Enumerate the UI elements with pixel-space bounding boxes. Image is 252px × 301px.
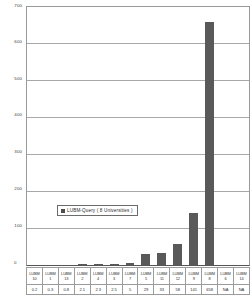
y-tick-label: 600 <box>14 40 22 44</box>
y-tick-label: 700 <box>14 4 22 8</box>
category-number: 8 <box>202 276 217 281</box>
bar-slot <box>90 7 106 265</box>
bar[interactable] <box>205 22 214 265</box>
category-cell: LUBM2 <box>74 268 90 285</box>
bar-slot <box>201 7 217 265</box>
category-cell: LUBM11 <box>154 268 170 285</box>
value-cell: 2.3 <box>90 285 106 295</box>
y-tick-label-zero: 0 <box>14 261 16 265</box>
category-cell: LUBM1 <box>42 268 58 285</box>
value-cell: 0.8 <box>58 285 74 295</box>
category-number: 6 <box>218 276 233 281</box>
bar-slot <box>75 7 91 265</box>
category-cell: LUBM4 <box>90 268 106 285</box>
bars-layer <box>27 7 249 265</box>
category-number: 7 <box>123 276 138 281</box>
y-tick-label: 100 <box>14 224 22 228</box>
category-cell: LUBM6 <box>218 268 234 285</box>
bar[interactable] <box>173 244 182 265</box>
y-tick-label: 200 <box>14 187 22 191</box>
category-cell: LUBM3 <box>106 268 122 285</box>
bar-slot <box>217 7 233 265</box>
bar-slot <box>186 7 202 265</box>
category-number: 1 <box>43 276 58 281</box>
value-cell: 658 <box>202 285 218 295</box>
bar[interactable] <box>126 263 135 265</box>
category-number: 10 <box>27 276 42 281</box>
bar[interactable] <box>189 213 198 265</box>
value-cell: 0.2 <box>27 285 43 295</box>
category-number: 11 <box>154 276 169 281</box>
value-cell: 29 <box>138 285 154 295</box>
bar[interactable] <box>157 253 166 265</box>
bar-slot <box>170 7 186 265</box>
category-number: 4 <box>91 276 106 281</box>
category-number: 9 <box>186 276 201 281</box>
value-cell: 58 <box>170 285 186 295</box>
category-cell: LUBM12 <box>170 268 186 285</box>
bar-slot <box>106 7 122 265</box>
bar[interactable] <box>78 264 87 265</box>
category-number: 14 <box>234 276 249 281</box>
chart-legend[interactable]: LUBM-Query ( 8 Universities ) <box>57 205 138 216</box>
value-cell: 33 <box>154 285 170 295</box>
bar-slot <box>154 7 170 265</box>
category-number: 3 <box>107 276 122 281</box>
bar[interactable] <box>141 254 150 265</box>
value-cell: 0.3 <box>42 285 58 295</box>
data-table: LUBM10 LUBM1 LUBM13 LUBM2 LUBM4 LUBM3 LU… <box>26 267 250 295</box>
category-cell: LUBM9 <box>186 268 202 285</box>
bar-slot <box>138 7 154 265</box>
table-row-values: 0.2 0.3 0.8 2.1 2.3 2.5 5 29 33 58 141 6… <box>27 285 250 295</box>
table-row-categories: LUBM10 LUBM1 LUBM13 LUBM2 LUBM4 LUBM3 LU… <box>27 268 250 285</box>
value-cell: 2.5 <box>106 285 122 295</box>
bar-slot <box>43 7 59 265</box>
bar-slot <box>122 7 138 265</box>
y-tick-label: 300 <box>14 150 22 154</box>
category-number: 5 <box>138 276 153 281</box>
category-cell: LUBM14 <box>233 268 249 285</box>
value-cell: 141 <box>186 285 202 295</box>
y-axis: 700 600 500 400 300 200 100 <box>0 0 26 266</box>
value-cell: 2.1 <box>74 285 90 295</box>
category-cell: LUBM7 <box>122 268 138 285</box>
legend-swatch-icon <box>61 209 65 213</box>
plot-area <box>26 6 250 266</box>
bar[interactable] <box>94 264 103 265</box>
legend-label: LUBM-Query ( 8 Universities ) <box>67 208 133 213</box>
y-tick-label: 500 <box>14 77 22 81</box>
y-tick-label: 400 <box>14 113 22 117</box>
value-cell: NA <box>218 285 234 295</box>
bar-slot <box>233 7 249 265</box>
category-cell: LUBM8 <box>202 268 218 285</box>
category-cell: LUBM13 <box>58 268 74 285</box>
category-cell: LUBM10 <box>27 268 43 285</box>
value-cell: NA <box>233 285 249 295</box>
bar-slot <box>27 7 43 265</box>
category-number: 12 <box>170 276 185 281</box>
value-cell: 5 <box>122 285 138 295</box>
category-cell: LUBM5 <box>138 268 154 285</box>
category-number: 2 <box>75 276 90 281</box>
bar-chart: 700 600 500 400 300 200 100 0 <box>0 0 252 301</box>
bar-slot <box>59 7 75 265</box>
category-number: 13 <box>59 276 74 281</box>
bar[interactable] <box>110 264 119 265</box>
